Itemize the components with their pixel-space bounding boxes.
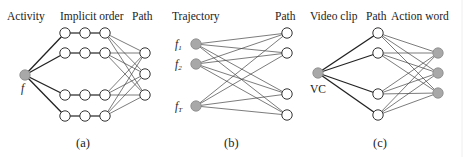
source-label-f: f — [21, 82, 26, 95]
edge — [25, 75, 65, 116]
label-f1: f1 — [175, 38, 182, 52]
video-clip-node — [313, 68, 323, 78]
nodes-a — [20, 28, 150, 121]
action-word-node — [433, 68, 443, 78]
header-action-word: Action word — [391, 10, 449, 22]
path-node — [282, 28, 292, 38]
path-node — [373, 48, 383, 58]
panel-b: Trajectory Path f1 f2 fT (b) — [172, 10, 296, 150]
activity-node — [20, 70, 30, 80]
edge — [25, 53, 65, 75]
implicit-order-node — [60, 48, 70, 58]
path-node — [373, 110, 383, 120]
edge — [378, 33, 438, 53]
path-node — [282, 48, 292, 58]
edge — [196, 33, 287, 106]
header-video-clip: Video clip — [310, 10, 358, 23]
edge — [378, 53, 438, 73]
header-path-b: Path — [275, 10, 296, 22]
implicit-order-node — [80, 90, 90, 100]
caption-b: (b) — [224, 136, 239, 150]
panel-c: Video clip Path Action word VC (c) — [310, 10, 449, 150]
implicit-order-node — [80, 111, 90, 121]
header-trajectory: Trajectory — [172, 10, 220, 23]
diagram-canvas: Activity Implicit order Path f (a) Traje… — [0, 0, 464, 157]
edge — [318, 73, 378, 115]
implicit-order-node — [80, 48, 90, 58]
implicit-order-node — [60, 90, 70, 100]
edge — [105, 95, 145, 116]
edge — [105, 53, 145, 116]
header-path-c: Path — [366, 10, 387, 22]
edges-a — [25, 33, 145, 116]
path-node — [140, 90, 150, 100]
edge — [196, 53, 287, 106]
trajectory-labels: f1 f2 fT — [175, 38, 183, 114]
path-node — [373, 28, 383, 38]
edge — [318, 73, 378, 94]
implicit-order-node — [80, 28, 90, 38]
label-fT: fT — [175, 100, 183, 114]
implicit-order-node — [60, 28, 70, 38]
edges-b — [196, 33, 287, 115]
edge — [25, 75, 65, 95]
path-node — [140, 48, 150, 58]
trajectory-node — [191, 39, 201, 49]
header-path-a: Path — [132, 10, 153, 22]
caption-a: (a) — [76, 136, 90, 150]
edge — [25, 33, 65, 75]
edge — [105, 33, 145, 53]
path-node — [282, 110, 292, 120]
edge — [196, 33, 287, 44]
panel-a: Activity Implicit order Path f (a) — [7, 10, 153, 150]
nodes-c — [313, 28, 443, 120]
edge — [105, 53, 145, 74]
edges-c — [318, 33, 438, 115]
action-word-node — [433, 48, 443, 58]
implicit-order-node — [100, 111, 110, 121]
path-node — [373, 89, 383, 99]
path-node — [282, 89, 292, 99]
action-word-node — [433, 88, 443, 98]
path-node — [140, 69, 150, 79]
implicit-order-node — [100, 90, 110, 100]
caption-c: (c) — [373, 136, 387, 150]
source-label-vc: VC — [310, 83, 326, 95]
edge — [196, 33, 287, 64]
header-implicit-order: Implicit order — [60, 10, 124, 23]
implicit-order-node — [100, 48, 110, 58]
edge — [105, 33, 145, 74]
edge — [318, 53, 378, 73]
implicit-order-node — [100, 28, 110, 38]
implicit-order-node — [60, 111, 70, 121]
trajectory-node — [191, 101, 201, 111]
edge — [318, 33, 378, 73]
label-f2: f2 — [175, 58, 182, 72]
trajectory-node — [191, 59, 201, 69]
header-activity: Activity — [7, 10, 45, 23]
nodes-b — [191, 28, 292, 120]
edge — [378, 93, 438, 115]
edge — [105, 33, 145, 95]
